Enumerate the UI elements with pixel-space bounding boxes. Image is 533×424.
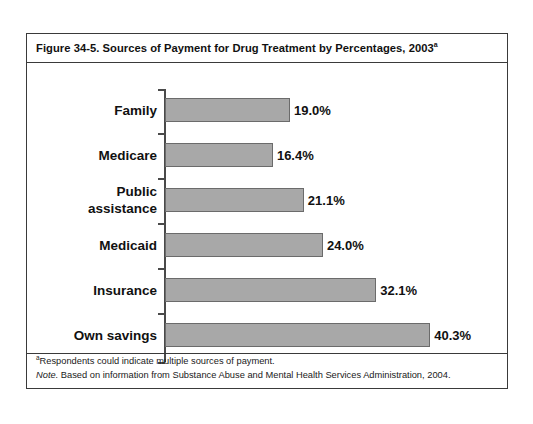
figure-title-superscript: a xyxy=(434,41,438,48)
axis-tick xyxy=(158,133,164,135)
footnote-a: aRespondents could indicate multiple sou… xyxy=(36,355,501,369)
figure-title-text: Figure 34-5. Sources of Payment for Drug… xyxy=(36,42,434,54)
note-label: Note. xyxy=(36,370,58,380)
bar-value-label: 32.1% xyxy=(380,283,417,298)
bar xyxy=(165,323,430,347)
axis-tick xyxy=(158,223,164,225)
category-label: Insurance xyxy=(37,282,157,299)
plot-area: FamilyMedicarePublicassistanceMedicaidIn… xyxy=(27,63,507,388)
bar xyxy=(165,143,273,167)
axis-cap-top xyxy=(158,89,165,91)
page-title: Figure 34-5. Sources of Payment for Drug… xyxy=(36,42,438,54)
footnote-note: Note. Based on information from Substanc… xyxy=(36,369,501,383)
bar-row: 32.1% xyxy=(165,278,417,302)
bar-row: 16.4% xyxy=(165,143,314,167)
bar-value-label: 19.0% xyxy=(294,103,331,118)
axis-tick xyxy=(158,268,164,270)
figure-title-bar: Figure 34-5. Sources of Payment for Drug… xyxy=(27,34,507,63)
axis-tick xyxy=(158,178,164,180)
bar-row: 40.3% xyxy=(165,323,471,347)
figure-container: Figure 34-5. Sources of Payment for Drug… xyxy=(26,33,508,389)
footnotes: aRespondents could indicate multiple sou… xyxy=(36,355,501,385)
note-text: Based on information from Substance Abus… xyxy=(58,370,450,380)
category-label: Medicare xyxy=(37,147,157,164)
bar-row: 24.0% xyxy=(165,233,364,257)
category-labels: FamilyMedicarePublicassistanceMedicaidIn… xyxy=(27,89,157,362)
bar xyxy=(165,278,376,302)
axis-tick xyxy=(158,313,164,315)
bar-series: 19.0%16.4%21.1%24.0%32.1%40.3% xyxy=(165,89,495,362)
category-label: Publicassistance xyxy=(37,183,157,217)
category-label: Own savings xyxy=(37,327,157,344)
bar-value-label: 24.0% xyxy=(327,238,364,253)
bar xyxy=(165,233,323,257)
bar-value-label: 21.1% xyxy=(308,193,345,208)
bar-value-label: 40.3% xyxy=(434,328,471,343)
bar-row: 21.1% xyxy=(165,188,345,212)
bar-row: 19.0% xyxy=(165,98,331,122)
bar-value-label: 16.4% xyxy=(277,148,314,163)
bar xyxy=(165,98,290,122)
footnote-a-text: Respondents could indicate multiple sour… xyxy=(40,356,275,366)
bar xyxy=(165,188,304,212)
footnote-divider xyxy=(27,353,507,354)
category-label: Medicaid xyxy=(37,237,157,254)
category-label: Family xyxy=(37,102,157,119)
